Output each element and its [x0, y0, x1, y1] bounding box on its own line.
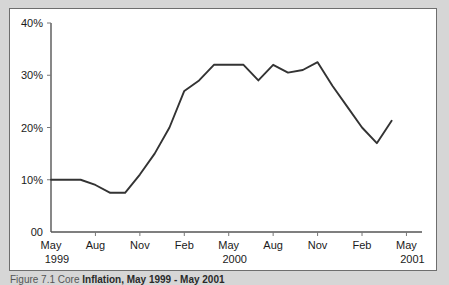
caption-lead: Figure 7.1 Core [10, 274, 79, 285]
x-year-label: 2001 [400, 253, 424, 265]
figure-panel: 0010%20%30%40% MayAugNovFebMayAugNovFebM… [9, 8, 437, 271]
x-tick-label: Feb [175, 239, 194, 251]
x-tick-label: May [218, 239, 239, 251]
y-tick-label: 40% [21, 17, 43, 29]
x-tick-label: May [396, 239, 417, 251]
figure-caption: Figure 7.1 Core Inflation, May 1999 - Ma… [10, 274, 440, 285]
y-tick-label: 30% [21, 69, 43, 81]
x-year-label: 2000 [222, 253, 246, 265]
x-year-label: 1999 [45, 253, 69, 265]
y-tick-label: 00 [31, 226, 43, 238]
x-tick-label: Aug [86, 239, 106, 251]
x-tick-label: Feb [353, 239, 372, 251]
caption-main: Inflation, May 1999 - May 2001 [82, 274, 224, 285]
y-tick-label: 10% [21, 174, 43, 186]
x-tick-label: Aug [263, 239, 283, 251]
x-tick-label: May [41, 239, 62, 251]
x-tick-label: Nov [308, 239, 328, 251]
line-chart: 0010%20%30%40% MayAugNovFebMayAugNovFebM… [10, 9, 436, 270]
data-series-line [51, 62, 392, 193]
x-tick-label: Nov [130, 239, 150, 251]
y-tick-label: 20% [21, 122, 43, 134]
x-tick-group: MayAugNovFebMayAugNovFebMay199920002001 [41, 232, 425, 265]
y-tick-group: 0010%20%30%40% [21, 17, 51, 238]
axes [51, 23, 422, 232]
